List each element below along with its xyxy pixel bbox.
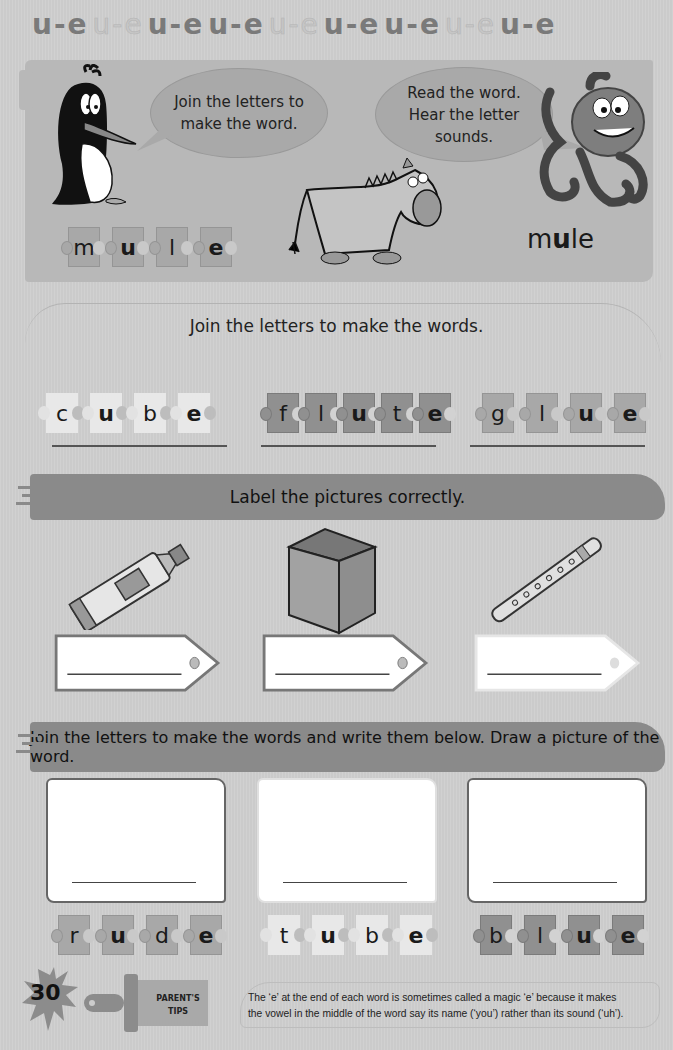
example-word: mule [527, 224, 594, 254]
drawing-frame-blue[interactable] [467, 778, 647, 903]
puzzle-piece: l [524, 915, 556, 955]
puzzle-piece: b [134, 393, 166, 433]
bubble-line: sounds. [435, 126, 493, 148]
puzzle-piece: u [90, 393, 122, 433]
answer-line[interactable] [283, 882, 407, 884]
puzzle-piece: e [419, 393, 451, 433]
label-section-title: Label the pictures correctly. [230, 487, 466, 507]
puzzle-tube: t u b e [262, 915, 438, 955]
label-tag-glue[interactable] [50, 634, 225, 692]
puzzle-piece: e [400, 915, 432, 955]
puzzle-piece: e [612, 915, 644, 955]
puzzle-piece: g [482, 393, 514, 433]
puzzle-piece: e [200, 227, 232, 267]
answer-line[interactable] [493, 882, 617, 884]
bubble-tail-icon [135, 125, 175, 155]
puzzle-piece: l [526, 393, 558, 433]
puzzle-piece: d [146, 915, 178, 955]
puzzle-glue: g l u e [476, 393, 652, 433]
label-tag-flute[interactable] [470, 634, 645, 692]
puzzle-piece: e [614, 393, 646, 433]
pattern-item: u-e [324, 8, 381, 48]
label-section-banner: Label the pictures correctly. [30, 474, 665, 520]
answer-line-flute[interactable] [261, 445, 436, 447]
pattern-item: u-e [148, 8, 205, 48]
pattern-item: u-e [32, 8, 89, 48]
puzzle-piece: c [46, 393, 78, 433]
pattern-item: u-e [445, 8, 496, 48]
draw-section-title: Join the letters to make the words and w… [30, 728, 665, 766]
pattern-item: u-e [93, 8, 144, 48]
puzzle-piece: m [68, 227, 100, 267]
puzzle-piece: l [305, 393, 337, 433]
bubble-line: make the word. [181, 113, 298, 135]
puzzle-piece: r [58, 915, 90, 955]
header-u-e-pattern: u-e u-e u-e u-e u-e u-e u-e u-e u-e [32, 8, 673, 48]
puzzle-flute: f l u t e [264, 393, 454, 433]
puzzle-piece: t [381, 393, 413, 433]
puzzle-piece: e [190, 915, 222, 955]
puzzle-piece: f [267, 393, 299, 433]
octopus-speech-bubble: Read the word. Hear the letter sounds. [375, 67, 553, 162]
join-section-title: Join the letters to make the words. [0, 316, 673, 336]
puzzle-piece: b [356, 915, 388, 955]
draw-section-banner: Join the letters to make the words and w… [30, 722, 665, 772]
drawing-frame-tube[interactable] [257, 778, 437, 903]
page-number: 30 [30, 980, 61, 1005]
answer-line-glue[interactable] [470, 445, 645, 447]
puzzle-piece: u [343, 393, 375, 433]
puzzle-rude: r u d e [52, 915, 228, 955]
pattern-item: u-e [500, 8, 557, 48]
glue-tube-icon [62, 540, 197, 630]
answer-line[interactable] [72, 882, 196, 884]
drawing-frame-rude[interactable] [46, 778, 226, 903]
mule-icon [285, 150, 445, 270]
puzzle-blue: b l u e [474, 915, 650, 955]
flute-icon [478, 530, 618, 630]
bubble-line: Join the letters to [174, 91, 304, 113]
puzzle-piece: l [156, 227, 188, 267]
puzzle-piece: t [268, 915, 300, 955]
answer-line-cube[interactable] [52, 445, 227, 447]
octopus-icon [530, 72, 650, 212]
puzzle-piece: u [112, 227, 144, 267]
puzzle-piece: u [570, 393, 602, 433]
penguin-icon [48, 64, 143, 214]
penguin-speech-bubble: Join the letters to make the word. [150, 68, 328, 158]
puzzle-piece: u [312, 915, 344, 955]
puzzle-piece: u [102, 915, 134, 955]
pattern-item: u-e [269, 8, 320, 48]
label-tag-cube[interactable] [258, 634, 433, 692]
example-puzzle-mule: m u l e [62, 227, 238, 267]
bubble-line: Hear the letter [409, 104, 520, 126]
puzzle-cube: c u b e [40, 393, 216, 433]
cube-icon [285, 527, 380, 637]
parents-tips-text: The ‘e’ at the end of each word is somet… [248, 990, 623, 1022]
pattern-item: u-e [208, 8, 265, 48]
parents-tips-label: PARENT'S TIPS [150, 992, 206, 1018]
puzzle-piece: e [178, 393, 210, 433]
puzzle-piece: u [568, 915, 600, 955]
puzzle-piece: b [480, 915, 512, 955]
pattern-item: u-e [384, 8, 441, 48]
bubble-line: Read the word. [407, 82, 520, 104]
